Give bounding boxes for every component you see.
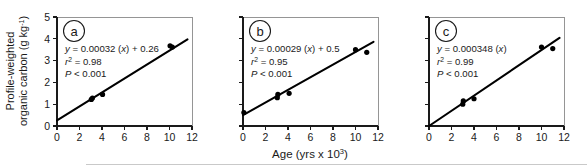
p-value-line: P < 0.001 [251,68,292,79]
data-point [170,44,175,49]
data-point [364,50,369,55]
x-tick-label: 0 [426,131,432,143]
x-tick-label: 0 [240,131,246,143]
x-tick-label: 4 [99,131,105,143]
x-tick-label: 10 [350,131,362,143]
y-axis-label: Profile-weightedorganic carbon (g kg-1) [4,16,29,126]
data-point [353,47,358,52]
x-tick-label: 12 [558,131,570,143]
p-value-line: P < 0.001 [65,68,106,79]
x-tick-label: 2 [77,131,83,143]
x-tick-label: 8 [516,131,522,143]
y-tick-label: 1 [44,98,50,110]
x-tick-label: 4 [285,131,291,143]
data-point [539,44,544,49]
equation-line: y = 0.000348 (x) [436,43,507,54]
data-point [241,110,246,115]
data-point [550,46,555,51]
x-tick-label: 12 [372,131,384,143]
equation-line: y = 0.00032 (x) + 0.26 [64,43,159,54]
x-tick-label: 6 [122,131,128,143]
x-tick-label: 10 [536,131,548,143]
figure-container: 012345024681012ay = 0.00032 (x) + 0.26r2… [0,0,587,166]
x-axis-label: Age (yrs x 103) [272,147,348,161]
x-tick-label: 0 [54,131,60,143]
y-tick-label: 3 [44,54,50,66]
data-point [90,95,95,100]
x-tick-label: 6 [308,131,314,143]
x-tick-label: 8 [144,131,150,143]
x-tick-label: 2 [449,131,455,143]
panel-b: 024681012by = 0.00029 (x) + 0.5r2 = 0.95… [239,17,384,143]
x-tick-label: 4 [471,131,477,143]
r-squared-line: r2 = 0.99 [437,55,474,67]
y-tick-label: 0 [44,120,50,132]
data-point [461,98,466,103]
p-value-line: P < 0.001 [437,68,478,79]
data-point [471,96,476,101]
x-tick-label: 10 [164,131,176,143]
data-point [275,92,280,97]
data-point [287,91,292,96]
y-tick-label: 5 [44,11,50,23]
equation-line: y = 0.00029 (x) + 0.5 [250,43,340,54]
x-tick-label: 2 [263,131,269,143]
r-squared-line: r2 = 0.95 [251,55,288,67]
panel-a: 012345024681012ay = 0.00032 (x) + 0.26r2… [44,11,198,143]
panel-label-a: a [70,24,78,39]
panel-label-b: b [256,24,263,39]
y-tick-label: 4 [44,33,50,45]
y-tick-label: 2 [44,76,50,88]
x-tick-label: 8 [330,131,336,143]
panel-label-c: c [443,24,450,39]
data-point [100,92,105,97]
x-tick-label: 6 [494,131,500,143]
x-tick-label: 12 [186,131,198,143]
panel-c: 024681012cy = 0.000348 (x)r2 = 0.99P < 0… [425,17,570,143]
scatter-plot-figure: 012345024681012ay = 0.00032 (x) + 0.26r2… [0,0,587,166]
r-squared-line: r2 = 0.98 [65,55,102,67]
